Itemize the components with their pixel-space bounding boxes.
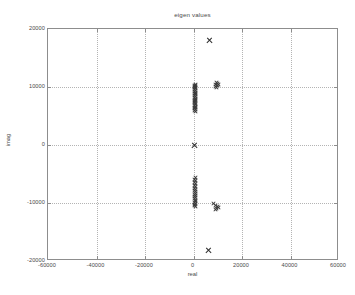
y-tick-label: -20000 (27, 257, 45, 263)
x-tick-label: 20000 (233, 262, 249, 268)
x-axis-tick (145, 256, 146, 259)
x-axis-tick (194, 29, 195, 32)
x-axis-tick (291, 29, 292, 32)
data-point-marker (192, 109, 197, 114)
y-axis-tick (334, 203, 337, 204)
x-axis-tick (145, 29, 146, 32)
x-axis-tick (242, 29, 243, 32)
y-tick-label: 0 (42, 141, 45, 147)
data-point-marker (212, 207, 217, 212)
y-tick-label: -10000 (27, 199, 45, 205)
x-tick-label: 0 (191, 262, 194, 268)
x-tick-label: -20000 (135, 262, 153, 268)
y-axis-tick (334, 87, 337, 88)
page-title: eigen values (47, 11, 338, 18)
x-axis-tick (194, 256, 195, 259)
y-axis-tick (48, 145, 51, 146)
plot-area (47, 28, 338, 260)
y-tick-label: 20000 (29, 25, 45, 31)
data-point-marker (205, 247, 212, 254)
x-axis-tick (242, 256, 243, 259)
data-points-layer (48, 29, 337, 259)
x-tick-label: 40000 (281, 262, 297, 268)
y-axis-tick (48, 87, 51, 88)
x-axis-tick (97, 256, 98, 259)
x-tick-label: -40000 (86, 262, 104, 268)
data-point-marker (190, 142, 197, 149)
data-point-marker (205, 37, 212, 44)
y-tick-label: 10000 (29, 83, 45, 89)
data-point-marker (213, 85, 218, 90)
x-tick-label: 60000 (330, 262, 346, 268)
y-axis-tick (334, 145, 337, 146)
x-axis-tick (291, 256, 292, 259)
x-axis-label: real (47, 271, 338, 277)
figure-canvas: eigen values -60000-40000-20000020000400… (0, 0, 355, 295)
y-axis-tick (48, 203, 51, 204)
x-axis-tick (97, 29, 98, 32)
data-point-marker (192, 204, 197, 209)
y-axis-label: imag (5, 125, 11, 155)
